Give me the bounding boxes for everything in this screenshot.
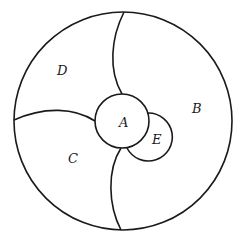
label-b: B [191, 101, 202, 116]
boundary-c-b [111, 148, 121, 230]
label-e: E [151, 132, 162, 147]
label-d: D [56, 63, 68, 78]
region-diagram: A B C D E [0, 0, 241, 239]
label-c: C [68, 151, 78, 166]
boundary-d-b [113, 12, 124, 94]
label-a: A [118, 115, 128, 130]
boundary-d-c [14, 110, 95, 121]
